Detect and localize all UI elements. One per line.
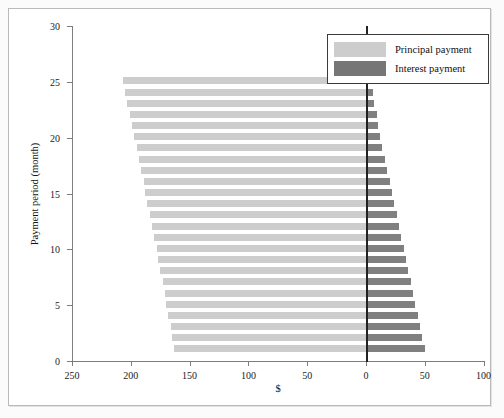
y-tick-label: 15	[50, 188, 60, 199]
bar-interest-payment	[366, 312, 418, 319]
bar-principal-payment	[130, 111, 366, 118]
bar-interest-payment	[366, 345, 425, 352]
bar-row	[72, 334, 484, 341]
x-axis-title: $	[275, 383, 280, 394]
bar-row	[72, 133, 484, 140]
bar-row	[72, 223, 484, 230]
x-tick	[131, 361, 132, 366]
legend-label-principal: Principal payment	[395, 44, 472, 55]
bar-row	[72, 167, 484, 174]
bar-interest-payment	[366, 245, 404, 252]
bar-interest-payment	[366, 133, 380, 140]
x-tick	[248, 361, 249, 366]
bar-interest-payment	[366, 156, 385, 163]
y-tick: 30	[67, 26, 72, 27]
x-tick	[484, 361, 485, 366]
bar-interest-payment	[366, 178, 390, 185]
bar-row	[72, 100, 484, 107]
x-tick-label: 150	[182, 370, 197, 381]
chart-legend: Principal payment Interest payment	[327, 34, 489, 84]
bar-row	[72, 290, 484, 297]
bar-row	[72, 200, 484, 207]
legend-label-interest: Interest payment	[395, 63, 465, 74]
bar-row	[72, 278, 484, 285]
x-tick-label: 50	[420, 370, 430, 381]
bar-principal-payment	[141, 167, 366, 174]
bar-row	[72, 144, 484, 151]
bar-principal-payment	[139, 156, 366, 163]
x-tick-label: 100	[476, 370, 491, 381]
bar-row	[72, 234, 484, 241]
bar-principal-payment	[165, 290, 366, 297]
bar-principal-payment	[158, 256, 366, 263]
bar-principal-payment	[157, 245, 366, 252]
bar-interest-payment	[366, 323, 420, 330]
bar-interest-payment	[366, 334, 422, 341]
bar-principal-payment	[152, 223, 366, 230]
bar-row	[72, 256, 484, 263]
bar-principal-payment	[168, 312, 366, 319]
legend-item-principal: Principal payment	[334, 40, 482, 59]
bar-principal-payment	[150, 211, 366, 218]
bar-interest-payment	[366, 278, 411, 285]
bar-principal-payment	[147, 200, 366, 207]
bar-interest-payment	[366, 301, 415, 308]
bar-interest-payment	[366, 223, 399, 230]
bar-principal-payment	[172, 334, 366, 341]
bar-principal-payment	[144, 178, 366, 185]
x-tick	[190, 361, 191, 366]
bar-interest-payment	[366, 144, 382, 151]
x-tick	[425, 361, 426, 366]
x-tick-label: 250	[65, 370, 80, 381]
y-tick-label: 0	[55, 356, 60, 367]
bar-principal-payment	[166, 301, 366, 308]
x-tick	[72, 361, 73, 366]
bar-row	[72, 245, 484, 252]
bar-row	[72, 312, 484, 319]
bar-interest-payment	[366, 267, 408, 274]
x-tick-label: 100	[241, 370, 256, 381]
bar-interest-payment	[366, 290, 413, 297]
y-axis-title: Payment period (month)	[29, 143, 40, 246]
bar-row	[72, 156, 484, 163]
bar-interest-payment	[366, 189, 392, 196]
x-tick	[307, 361, 308, 366]
x-tick-label: 200	[123, 370, 138, 381]
bar-row	[72, 111, 484, 118]
bar-principal-payment	[125, 89, 366, 96]
bar-row	[72, 122, 484, 129]
bar-principal-payment	[127, 100, 366, 107]
figure-frame: Payment period (month) $ 051015202530 25…	[8, 8, 491, 406]
bar-row	[72, 267, 484, 274]
bar-principal-payment	[145, 189, 366, 196]
bar-row	[72, 323, 484, 330]
y-tick-label: 30	[50, 21, 60, 32]
bar-principal-payment	[134, 133, 366, 140]
bar-row	[72, 89, 484, 96]
bar-interest-payment	[366, 211, 397, 218]
y-tick-label: 5	[55, 300, 60, 311]
bar-interest-payment	[366, 200, 394, 207]
legend-item-interest: Interest payment	[334, 59, 482, 78]
y-tick-label: 10	[50, 244, 60, 255]
bar-principal-payment	[163, 278, 366, 285]
bar-interest-payment	[366, 256, 406, 263]
chart-page: Payment period (month) $ 051015202530 25…	[0, 0, 504, 418]
bar-row	[72, 345, 484, 352]
bar-principal-payment	[160, 267, 366, 274]
x-axis-line	[72, 361, 484, 362]
bar-interest-payment	[366, 234, 401, 241]
bar-principal-payment	[171, 323, 366, 330]
bar-principal-payment	[132, 122, 366, 129]
bar-principal-payment	[137, 144, 366, 151]
bar-row	[72, 189, 484, 196]
bar-row	[72, 178, 484, 185]
y-tick-label: 20	[50, 132, 60, 143]
bar-row	[72, 211, 484, 218]
x-tick-label: 50	[302, 370, 312, 381]
bar-row	[72, 301, 484, 308]
bar-interest-payment	[366, 167, 387, 174]
legend-swatch-principal-icon	[334, 42, 386, 57]
legend-swatch-interest-icon	[334, 61, 386, 76]
bar-principal-payment	[154, 234, 366, 241]
